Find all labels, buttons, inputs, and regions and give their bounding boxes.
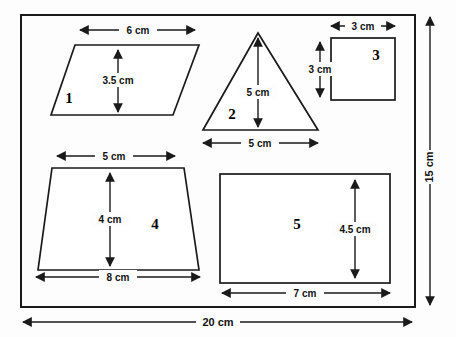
shape-2-number: 2 — [228, 106, 236, 122]
shape-2-base-label: 5 cm — [249, 138, 272, 149]
shape-2-base-dimension: 5 cm — [203, 136, 318, 150]
shape-3-number: 3 — [372, 47, 380, 63]
shape-4-bottom-label: 8 cm — [107, 272, 130, 283]
shape-1-base-label: 6 cm — [127, 25, 150, 36]
geometry-diagram: 6 cm 3.5 cm 1 5 cm 5 cm 2 — [0, 0, 456, 337]
shape-4-height-label: 4 cm — [99, 214, 122, 225]
shape-4-top-dimension: 5 cm — [57, 149, 175, 163]
shape-3-width-dimension: 3 cm — [331, 19, 395, 33]
frame-height-label: 15 cm — [423, 151, 435, 182]
diagram-canvas: 6 cm 3.5 cm 1 5 cm 5 cm 2 — [0, 0, 456, 337]
shape-5-width-label: 7 cm — [294, 288, 317, 299]
shape-4-top-label: 5 cm — [103, 151, 126, 162]
frame-width-dimension: 20 cm — [23, 315, 412, 329]
shape-4-number: 4 — [151, 216, 159, 232]
shape-3-width-label: 3 cm — [352, 21, 375, 32]
shape-1-base-dimension: 6 cm — [80, 23, 195, 37]
shape-5-number: 5 — [293, 216, 301, 232]
shape-3-square — [331, 38, 395, 100]
shape-2-height-label: 5 cm — [247, 87, 270, 98]
frame-height-dimension: 15 cm — [418, 17, 442, 305]
frame-width-label: 20 cm — [202, 316, 233, 328]
shape-2-triangle — [203, 33, 318, 130]
shape-1-number: 1 — [65, 90, 73, 106]
shape-5-width-dimension: 7 cm — [222, 286, 390, 300]
shape-4-bottom-dimension: 8 cm — [36, 270, 200, 284]
shape-5-height-label: 4.5 cm — [339, 224, 370, 235]
shape-1-height-label: 3.5 cm — [102, 75, 133, 86]
shape-3-height-label: 3 cm — [309, 64, 332, 75]
